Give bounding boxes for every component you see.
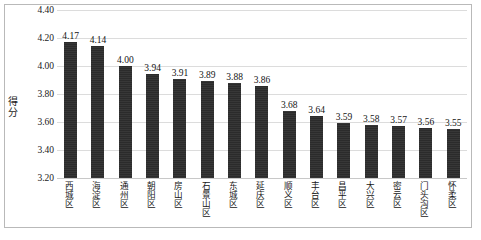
bar-chart: 得分 4.404.204.003.803.603.403.20 4.174.14… xyxy=(0,0,481,240)
x-slot: 延庆区 xyxy=(248,180,275,228)
x-category-label: 朝阳区 xyxy=(147,182,158,209)
bar[interactable] xyxy=(146,74,159,178)
bar-value-label: 3.68 xyxy=(281,100,298,110)
bar-slot: 3.68 xyxy=(276,10,303,178)
y-tick-label: 4.00 xyxy=(20,61,54,71)
bar-slot: 3.89 xyxy=(194,10,221,178)
x-slot: 门头沟区 xyxy=(412,180,439,228)
x-slot: 昌平区 xyxy=(330,180,357,228)
x-slot: 东城区 xyxy=(221,180,248,228)
bar[interactable] xyxy=(173,79,186,178)
bar[interactable] xyxy=(447,129,460,178)
y-tick-label: 4.20 xyxy=(20,33,54,43)
x-slot: 朝阳区 xyxy=(139,180,166,228)
x-slot: 石景山区 xyxy=(194,180,221,228)
bar-value-label: 3.89 xyxy=(199,70,216,80)
bar-slot: 4.17 xyxy=(57,10,84,178)
bar-slot: 3.58 xyxy=(358,10,385,178)
y-tick-label: 3.80 xyxy=(20,89,54,99)
bar-slot: 3.59 xyxy=(330,10,357,178)
bar[interactable] xyxy=(365,125,378,178)
bar[interactable] xyxy=(91,46,104,178)
plot-area: 4.174.144.003.943.913.893.883.863.683.64… xyxy=(57,10,467,178)
bar-slot: 3.91 xyxy=(166,10,193,178)
x-slot: 海淀区 xyxy=(84,180,111,228)
y-axis-title-char-1: 分 xyxy=(6,107,20,118)
bar-value-label: 3.56 xyxy=(418,117,435,127)
bar[interactable] xyxy=(283,111,296,178)
bar-slot: 4.00 xyxy=(112,10,139,178)
bar-value-label: 4.00 xyxy=(117,55,134,65)
x-category-label: 海淀区 xyxy=(92,182,103,209)
y-tick-label: 3.40 xyxy=(20,145,54,155)
x-slot: 西城区 xyxy=(57,180,84,228)
x-slot: 房山区 xyxy=(166,180,193,228)
bar-value-label: 3.86 xyxy=(254,75,271,85)
x-category-label: 西城区 xyxy=(65,182,76,209)
bar-slot: 3.86 xyxy=(248,10,275,178)
axis-baseline xyxy=(57,178,467,179)
x-category-label: 石景山区 xyxy=(202,182,213,218)
bar[interactable] xyxy=(392,126,405,178)
x-category-label: 昌平区 xyxy=(338,182,349,209)
x-category-label: 东城区 xyxy=(229,182,240,209)
bar[interactable] xyxy=(119,66,132,178)
x-slot: 丰台区 xyxy=(303,180,330,228)
bar[interactable] xyxy=(201,81,214,178)
bar-slot: 3.64 xyxy=(303,10,330,178)
bar-value-label: 3.64 xyxy=(308,105,325,115)
bar-slot: 3.94 xyxy=(139,10,166,178)
bar-value-label: 4.17 xyxy=(62,31,79,41)
y-tick-label: 3.60 xyxy=(20,117,54,127)
bar-slot: 3.56 xyxy=(412,10,439,178)
bar-value-label: 4.14 xyxy=(90,35,107,45)
bar-value-label: 3.94 xyxy=(144,63,161,73)
y-tick-label: 3.20 xyxy=(20,173,54,183)
bar-slot: 3.57 xyxy=(385,10,412,178)
bar-value-label: 3.55 xyxy=(445,118,462,128)
x-slot: 大兴区 xyxy=(358,180,385,228)
x-category-label: 延庆区 xyxy=(256,182,267,209)
bar-series: 4.174.144.003.943.913.893.883.863.683.64… xyxy=(57,10,467,178)
bar[interactable] xyxy=(228,83,241,178)
bar-value-label: 3.91 xyxy=(172,68,189,78)
bar-value-label: 3.88 xyxy=(226,72,243,82)
y-axis-tick-labels: 4.404.204.003.803.603.403.20 xyxy=(20,8,54,180)
x-category-label: 怀柔区 xyxy=(448,182,459,209)
x-slot: 通州区 xyxy=(112,180,139,228)
bar[interactable] xyxy=(255,86,268,178)
bar[interactable] xyxy=(64,42,77,178)
x-category-label: 大兴区 xyxy=(366,182,377,209)
y-axis-title: 得分 xyxy=(6,96,20,118)
x-category-label: 丰台区 xyxy=(311,182,322,209)
x-axis-category-labels: 西城区海淀区通州区朝阳区房山区石景山区东城区延庆区顺义区丰台区昌平区大兴区密云区… xyxy=(57,180,467,228)
bar-value-label: 3.58 xyxy=(363,114,380,124)
x-slot: 顺义区 xyxy=(276,180,303,228)
x-slot: 密云区 xyxy=(385,180,412,228)
x-slot: 怀柔区 xyxy=(440,180,467,228)
bar[interactable] xyxy=(310,116,323,178)
bar[interactable] xyxy=(337,123,350,178)
bar[interactable] xyxy=(419,128,432,178)
y-tick-label: 4.40 xyxy=(20,5,54,15)
x-category-label: 密云区 xyxy=(393,182,404,209)
bar-slot: 3.88 xyxy=(221,10,248,178)
x-category-label: 门头沟区 xyxy=(420,182,431,218)
x-category-label: 房山区 xyxy=(174,182,185,209)
bar-slot: 3.55 xyxy=(440,10,467,178)
bar-slot: 4.14 xyxy=(84,10,111,178)
y-axis-title-char-0: 得 xyxy=(6,96,20,107)
x-category-label: 顺义区 xyxy=(284,182,295,209)
x-category-label: 通州区 xyxy=(120,182,131,209)
bar-value-label: 3.57 xyxy=(390,115,407,125)
bar-value-label: 3.59 xyxy=(336,112,353,122)
